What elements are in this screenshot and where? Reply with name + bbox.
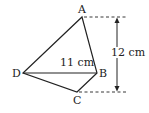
quadrilateral-abcd <box>23 17 97 92</box>
height-length-label: 12 cm <box>111 47 145 58</box>
arrow-down-icon <box>115 86 120 92</box>
diagonal-length-label: 11 cm <box>60 57 94 68</box>
vertex-label-d: D <box>12 68 21 79</box>
vertex-label-c: C <box>73 95 81 106</box>
vertex-label-a: A <box>78 4 86 15</box>
quadrilateral-diagram: A B C D 11 cm 12 cm <box>0 0 149 113</box>
arrow-up-icon <box>115 18 120 24</box>
vertex-label-b: B <box>99 68 107 79</box>
